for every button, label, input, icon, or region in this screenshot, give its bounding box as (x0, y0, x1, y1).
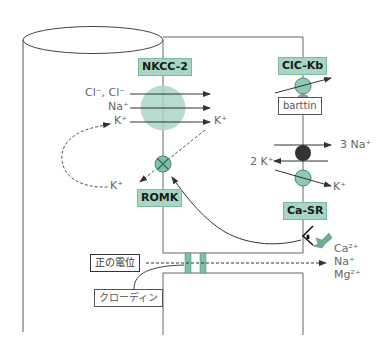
positive-potential-label: 正の電位 (90, 254, 140, 272)
claudin-label: クローディン (94, 289, 163, 307)
ion-3na: 3 Na⁺ (340, 139, 371, 151)
casr-label: Ca-SR (283, 202, 327, 220)
ion-na-para: Na⁺ (334, 256, 355, 268)
claudin-pointer (134, 265, 184, 289)
lower-cell (163, 273, 303, 335)
ion-k-romk: K⁺ (110, 180, 123, 192)
barttin-label: barttin (278, 97, 322, 115)
ion-mg: Mg²⁺ (334, 269, 361, 281)
casr-receptor (303, 226, 332, 248)
ion-ca: Ca²⁺ (334, 243, 359, 255)
ion-k-left: K⁺ (114, 115, 127, 127)
clckb-label: ClC-Kb (278, 57, 327, 75)
ion-cl: Cl⁻, Cl⁻ (85, 87, 125, 99)
ion-na: Na⁺ (108, 101, 129, 113)
nkcc2-transporter (130, 86, 210, 131)
na-k-atpase (274, 145, 331, 161)
romk-channel (155, 156, 171, 172)
k-recycling-path (62, 124, 205, 187)
romk-label: ROMK (137, 189, 182, 207)
casr-inhibition-curve (172, 177, 301, 244)
basolateral-k-channel (275, 170, 331, 186)
ion-k-right: K⁺ (214, 115, 227, 127)
ion-k-basolateral: K⁺ (333, 181, 346, 193)
diagram-canvas (0, 0, 388, 359)
nkcc2-label: NKCC-2 (138, 58, 192, 76)
ion-2k: 2 K⁺ (250, 156, 274, 168)
